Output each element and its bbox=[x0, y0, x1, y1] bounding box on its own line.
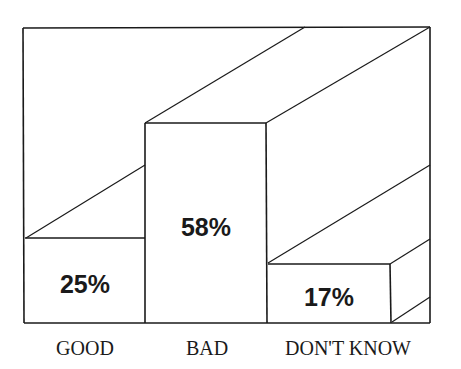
bar-good: 25% bbox=[25, 165, 145, 298]
bar-dont-know: 17% bbox=[268, 165, 430, 323]
category-label-bad: BAD bbox=[186, 337, 228, 359]
bar-dont-know-value: 17% bbox=[304, 283, 354, 311]
bar-bad-value: 58% bbox=[181, 213, 231, 241]
category-label-dont-know: DON'T KNOW bbox=[285, 337, 411, 359]
category-label-good: GOOD bbox=[56, 337, 114, 359]
bar-good-value: 25% bbox=[60, 270, 110, 298]
bar-bad: 58% bbox=[145, 27, 430, 323]
x-axis-labels: GOOD BAD DON'T KNOW bbox=[56, 337, 411, 359]
bar-chart: 25% 58% 17% GOOD BAD DON'T KNOW bbox=[0, 0, 461, 369]
